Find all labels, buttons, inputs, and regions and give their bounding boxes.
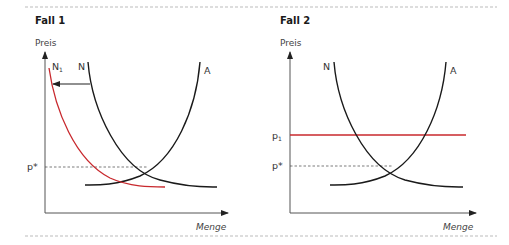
- supply-curve-a: [330, 62, 446, 185]
- curve-label-a: A: [450, 65, 457, 76]
- x-axis-label: Menge: [443, 222, 474, 232]
- equilibrium-price-label: p*: [27, 161, 38, 172]
- panel-title: Fall 2: [280, 15, 310, 26]
- y-axis-label: Preis: [280, 38, 302, 48]
- market-diagrams: Fall 1 Preis Menge p* N1 N A Fall 2 Prei…: [0, 0, 509, 245]
- x-axis-label: Menge: [196, 222, 227, 232]
- panel-fall-1: Fall 1 Preis Menge p* N1 N A: [27, 15, 228, 232]
- curve-label-n: N: [78, 61, 85, 72]
- curve-label-a: A: [204, 65, 211, 76]
- panel-title: Fall 1: [35, 15, 65, 26]
- curve-label-n1: N1: [52, 61, 63, 73]
- panel-fall-2: Fall 2 Preis Menge p1 p* N A: [272, 15, 476, 232]
- y-axis-label: Preis: [35, 38, 57, 48]
- curve-label-n: N: [323, 61, 330, 72]
- equilibrium-price-label: p*: [272, 160, 283, 171]
- fixed-price-label: p1: [272, 130, 282, 142]
- supply-curve-a: [85, 62, 200, 185]
